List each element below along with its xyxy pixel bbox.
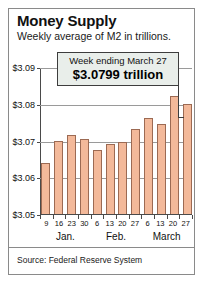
bar-series xyxy=(41,68,192,214)
y-axis-label: $3.07 xyxy=(12,137,35,147)
callout-stem-vertical xyxy=(178,84,179,118)
bar xyxy=(80,139,89,214)
y-axis-label: $3.06 xyxy=(12,173,35,183)
bar xyxy=(157,124,166,214)
x-axis-tick xyxy=(40,215,41,219)
x-axis-tick-label: 27 xyxy=(131,219,139,228)
y-axis-tick xyxy=(37,105,40,106)
x-axis-tick xyxy=(179,215,180,219)
bar xyxy=(67,135,76,214)
x-axis-tick xyxy=(141,215,142,219)
x-axis-tick xyxy=(91,215,92,219)
x-axis-tick-label: 6 xyxy=(146,219,150,228)
x-axis-tick-label: 9 xyxy=(44,219,48,228)
bar xyxy=(93,150,102,214)
bar xyxy=(54,141,63,215)
x-axis-tick-label: 30 xyxy=(80,219,88,228)
x-axis-tick-label: 20 xyxy=(118,219,126,228)
x-axis-month-label: Jan. xyxy=(56,231,75,242)
callout-box: Week ending March 27 $3.0799 trillion xyxy=(57,52,179,86)
x-axis-tick-label: 16 xyxy=(55,219,63,228)
x-axis-month-label: March xyxy=(153,231,181,242)
y-axis-label: $3.09 xyxy=(12,63,35,73)
x-axis-tick-label: 23 xyxy=(67,219,75,228)
x-axis-tick xyxy=(129,215,130,219)
source-divider xyxy=(9,247,194,248)
chart-subtitle: Weekly average of M2 in trillions. xyxy=(17,30,171,42)
x-axis-tick xyxy=(65,215,66,219)
x-axis-tick xyxy=(53,215,54,219)
x-axis-month-label: Feb. xyxy=(106,231,126,242)
x-axis-tick xyxy=(78,215,79,219)
x-axis-tick-label: 13 xyxy=(105,219,113,228)
page-title: Money Supply xyxy=(17,12,116,29)
callout-week-label: Week ending March 27 xyxy=(62,55,174,67)
bar xyxy=(144,118,153,214)
plot-area: $3.05$3.06$3.07$3.08$3.09 91623306132027… xyxy=(40,68,192,215)
x-axis-tick-label: 20 xyxy=(169,219,177,228)
x-axis-tick xyxy=(154,215,155,219)
bar xyxy=(118,142,127,214)
bar xyxy=(41,163,50,214)
source-note: Source: Federal Reserve System xyxy=(17,255,142,265)
y-axis-label: $3.05 xyxy=(12,210,35,220)
bar xyxy=(183,104,192,214)
x-axis-tick-label: 6 xyxy=(95,219,99,228)
bar xyxy=(131,129,140,214)
x-axis-tick xyxy=(116,215,117,219)
y-axis-label: $3.08 xyxy=(12,100,35,110)
bar xyxy=(106,144,115,214)
x-axis-tick xyxy=(167,215,168,219)
x-axis-tick xyxy=(103,215,104,219)
callout-value: $3.0799 trillion xyxy=(62,67,174,82)
callout-stem-horizontal xyxy=(178,117,184,118)
x-axis-tick-label: 13 xyxy=(156,219,164,228)
y-axis-tick xyxy=(37,68,40,69)
y-axis-tick xyxy=(37,178,40,179)
x-axis-tick-label: 27 xyxy=(181,219,189,228)
x-axis-tick xyxy=(192,215,193,219)
y-axis-tick xyxy=(37,142,40,143)
money-supply-chart-figure: Money Supply Weekly average of M2 in tri… xyxy=(0,0,203,283)
